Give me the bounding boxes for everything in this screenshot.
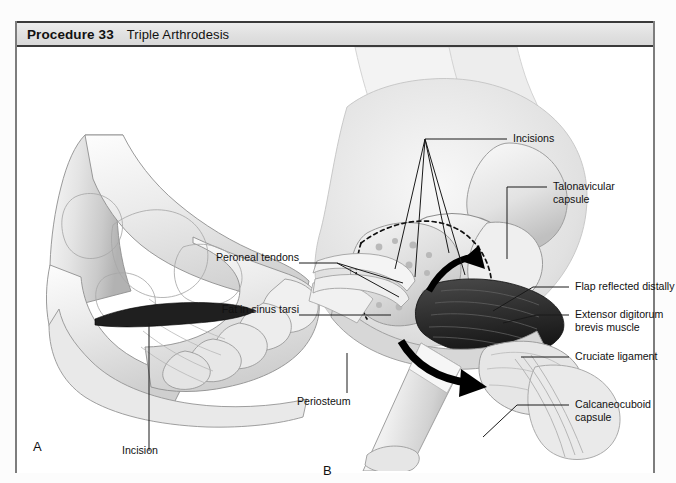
figure-artwork: Incision Peroneal tendons Fat in sinus t… [17,47,653,471]
panel-a-foot-illustration [46,135,319,451]
label-incisions: Incisions [513,132,554,145]
panel-letter-a: A [33,439,42,454]
figure-plate: Procedure 33 Triple Arthrodesis [15,21,655,473]
label-peroneal-tendons: Peroneal tendons [137,251,299,264]
label-incision: Incision [122,444,158,457]
screenshot-page: Procedure 33 Triple Arthrodesis [0,0,676,483]
label-extensor-digitorum-brevis-muscle: Extensor digitorum brevis muscle [575,308,676,333]
label-calcaneocuboid-capsule: Calcaneocuboid capsule [575,398,676,423]
label-periosteum: Periosteum [297,395,351,408]
label-flap-reflected-distally: Flap reflected distally [575,280,676,293]
procedure-number: Procedure 33 [27,27,114,42]
label-cruciate-ligament: Cruciate ligament [575,350,676,363]
label-talonavicular-capsule: Talonavicular capsule [553,180,661,205]
panel-letter-b: B [323,463,332,478]
procedure-title-bar: Procedure 33 Triple Arthrodesis [17,21,653,47]
surgical-retractor [363,343,461,471]
procedure-title: Triple Arthrodesis [127,27,229,42]
label-fat-in-sinus-tarsi: Fat in sinus tarsi [137,303,299,316]
